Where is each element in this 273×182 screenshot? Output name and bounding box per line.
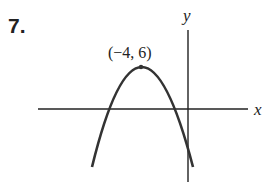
- y-axis-label: y: [181, 6, 191, 25]
- problem-number: 7.: [8, 14, 26, 37]
- x-axis-label: x: [253, 100, 262, 119]
- vertex-point: [139, 65, 143, 69]
- vertex-label: (−4, 6): [108, 44, 152, 62]
- parabola-curve: [92, 67, 193, 167]
- parabola-figure: 7. x y (−4, 6): [0, 0, 273, 182]
